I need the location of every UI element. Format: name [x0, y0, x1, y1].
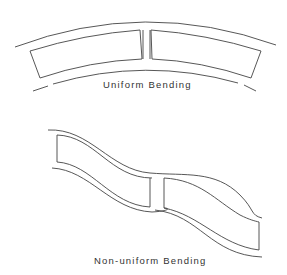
nonuniform-bending-label: Non-uniform Bending	[94, 255, 207, 266]
outer-arc	[15, 22, 276, 47]
bending-diagram: Uniform Bending Non-uniform Bending	[0, 0, 287, 275]
inner-arc-right-dash	[244, 85, 256, 91]
right-block	[164, 178, 259, 250]
lower-outer-right	[155, 210, 262, 257]
left-block-lower	[57, 135, 150, 207]
upper-outer-curve	[48, 130, 262, 218]
uniform-bending-label: Uniform Bending	[103, 79, 192, 90]
diagram-drawing	[0, 0, 287, 275]
lower-outer-left	[52, 168, 152, 212]
inner-arc-left-dash	[33, 86, 48, 91]
nonuniform-bending-figure	[48, 130, 262, 257]
upper-inner-left	[57, 135, 152, 178]
gap	[143, 30, 150, 59]
